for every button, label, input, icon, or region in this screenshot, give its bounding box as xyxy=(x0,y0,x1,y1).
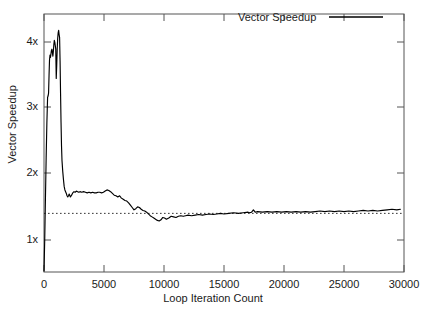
y-axis-ticks xyxy=(44,42,404,240)
plot-canvas xyxy=(0,0,426,315)
x-tick-label-30000: 30000 xyxy=(377,279,426,290)
x-axis-ticks xyxy=(44,14,404,272)
x-tick-label-10000: 10000 xyxy=(137,279,191,290)
legend-entry-label: Vector Speedup xyxy=(238,12,316,23)
vector-speedup-chart: 4x 3x 2x 1x 0 5000 10000 15000 20000 250… xyxy=(0,0,426,315)
plot-frame xyxy=(44,14,404,272)
x-tick-label-15000: 15000 xyxy=(197,279,251,290)
y-tick-label-4x: 4x xyxy=(12,36,38,47)
y-tick-label-2x: 2x xyxy=(12,167,38,178)
x-tick-label-0: 0 xyxy=(24,279,64,290)
x-tick-label-20000: 20000 xyxy=(257,279,311,290)
y-tick-label-1x: 1x xyxy=(12,234,38,245)
y-axis-title: Vector Speedup xyxy=(7,92,18,164)
series-line-vector-speedup xyxy=(44,30,400,270)
x-tick-label-25000: 25000 xyxy=(317,279,371,290)
x-axis-title: Loop Iteration Count xyxy=(0,293,426,304)
x-tick-label-5000: 5000 xyxy=(79,279,129,290)
